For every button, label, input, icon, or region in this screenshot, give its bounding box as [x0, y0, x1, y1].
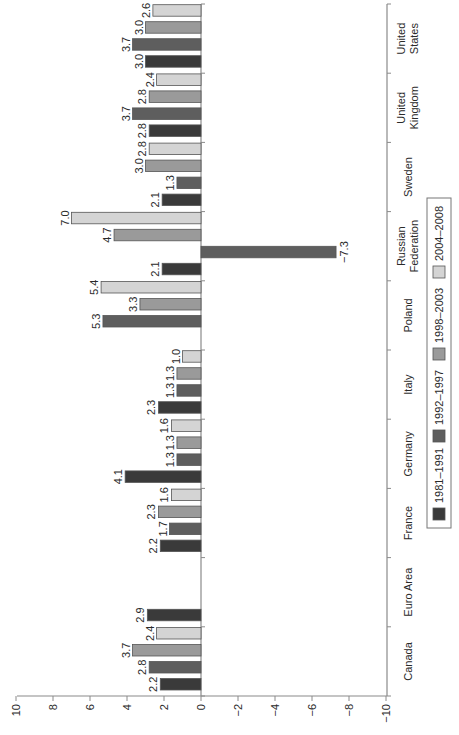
chart-frame: 1086420−2−4−6−8−10 2.22.92.24.12.32.12.1… — [0, 0, 459, 735]
value-tick-label: −8 — [343, 704, 355, 717]
bar — [177, 368, 201, 380]
bar — [72, 212, 202, 224]
category-label: Euro Area — [402, 567, 414, 617]
bar — [177, 454, 201, 466]
bar — [158, 506, 201, 517]
bar-value-label: 3.0 — [133, 54, 145, 69]
bar — [201, 246, 336, 258]
bar-value-label: −7.3 — [338, 241, 350, 263]
category-label: France — [402, 506, 414, 540]
bar — [114, 229, 201, 241]
bar-value-label: 2.8 — [136, 89, 148, 104]
bar-value-label: 1.6 — [158, 418, 170, 433]
bar-value-label: 2.1 — [149, 261, 161, 276]
bar — [147, 609, 201, 621]
category-label: States — [408, 23, 420, 55]
bar-value-label: 3.3 — [127, 297, 139, 312]
legend-swatch — [433, 266, 445, 278]
value-tick-label: −10 — [380, 704, 392, 723]
bar-value-label: 2.1 — [149, 192, 161, 207]
value-tick-label: 8 — [47, 704, 59, 710]
bar-value-label: 3.0 — [133, 20, 145, 35]
value-tick-label: 10 — [10, 704, 22, 716]
category-labels: CanadaEuro AreaFranceGermanyItalyPolandR… — [395, 23, 420, 681]
bar — [171, 420, 201, 432]
value-tick-label: 4 — [121, 704, 133, 710]
bar — [149, 662, 201, 674]
legend-swatch — [433, 348, 445, 360]
bar — [125, 471, 201, 483]
bars — [72, 5, 337, 690]
bar-value-label: 2.3 — [145, 400, 157, 415]
bar-value-label: 5.3 — [90, 314, 102, 329]
bar — [149, 143, 201, 155]
bar — [177, 177, 201, 189]
category-label: Kingdom — [408, 86, 420, 129]
data-labels: 2.22.92.24.12.32.12.12.83.02.81.71.31.35… — [59, 3, 351, 692]
category-label: Italy — [402, 374, 414, 395]
bar-value-label: 1.3 — [164, 383, 176, 398]
bar — [149, 125, 201, 137]
bar — [133, 39, 201, 51]
bar — [133, 645, 201, 657]
bar-value-label: 2.8 — [136, 141, 148, 156]
category-label: Germany — [402, 431, 414, 477]
value-tick-label: −4 — [269, 704, 281, 717]
bar — [157, 74, 201, 86]
bar — [162, 194, 201, 206]
value-tick-label: −6 — [306, 704, 318, 717]
bar — [177, 437, 201, 449]
bar-value-label: 4.7 — [101, 227, 113, 242]
bar — [103, 316, 201, 328]
legend-label: 1992–1997 — [433, 370, 445, 425]
value-tick-label: 6 — [84, 704, 96, 710]
legend-swatch — [433, 430, 445, 442]
bar — [158, 402, 201, 414]
value-tick-label: 0 — [195, 704, 207, 710]
bar — [160, 540, 201, 552]
bar-value-label: 2.9 — [134, 607, 146, 622]
bar — [157, 628, 201, 640]
bar-value-label: 3.7 — [120, 106, 132, 121]
category-label: Poland — [402, 298, 414, 332]
bar — [162, 263, 201, 275]
bar-value-label: 2.2 — [147, 677, 159, 692]
bar — [146, 56, 202, 68]
bar-value-label: 7.0 — [59, 210, 71, 225]
bar-value-label: 2.8 — [136, 660, 148, 675]
bar-value-label: 1.3 — [164, 175, 176, 190]
bar-chart: 1086420−2−4−6−8−10 2.22.92.24.12.32.12.1… — [0, 0, 459, 735]
category-label: Canada — [402, 641, 414, 680]
bar — [153, 5, 201, 17]
bar-value-label: 5.4 — [88, 280, 100, 295]
bar-value-label: 1.3 — [164, 452, 176, 467]
category-label: United — [395, 23, 407, 55]
bar-value-label: 3.0 — [133, 158, 145, 173]
legend-label: 1998–2003 — [433, 288, 445, 343]
bar-value-label: 3.7 — [120, 643, 132, 658]
category-label: United — [395, 92, 407, 124]
bar — [149, 91, 201, 103]
bar — [183, 351, 202, 363]
bar-value-label: 2.4 — [144, 72, 156, 87]
bar-value-label: 2.6 — [140, 3, 152, 18]
bar-value-label: 1.0 — [170, 349, 182, 364]
bar — [170, 523, 201, 535]
bar-value-label: 1.7 — [157, 521, 169, 536]
bar — [177, 385, 201, 397]
value-tick-label: 2 — [158, 704, 170, 710]
chart-canvas: 1086420−2−4−6−8−10 2.22.92.24.12.32.12.1… — [0, 0, 459, 735]
category-label: Federation — [408, 220, 420, 273]
bar-value-label: 3.7 — [120, 37, 132, 52]
category-label: Sweden — [402, 157, 414, 197]
legend: 1981–19911992–19971998–20032004–2008 — [427, 198, 451, 528]
bar — [146, 160, 202, 172]
bar-value-label: 1.3 — [164, 366, 176, 381]
bar — [133, 108, 201, 120]
bar — [146, 22, 202, 34]
bar-value-label: 2.8 — [136, 123, 148, 138]
bar-value-label: 1.3 — [164, 435, 176, 450]
bar-value-label: 2.2 — [147, 538, 159, 553]
legend-label: 1981–1991 — [433, 448, 445, 503]
bar-value-label: 2.4 — [144, 626, 156, 641]
